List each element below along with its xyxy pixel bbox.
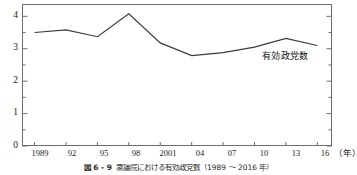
series-annotation-label: 有効政党数 — [262, 52, 309, 61]
figure-caption-number: 図 6 - 9 — [84, 164, 112, 172]
x-tick-label-98: 98 — [132, 149, 141, 158]
figure-container: 4 3 2 1 0 1989 92 95 98 2001 04 07 10 13… — [0, 0, 357, 175]
x-tick-label-07: 07 — [228, 149, 237, 158]
y-tick-label-1: 1 — [0, 108, 18, 118]
x-tick-label-10: 10 — [260, 149, 269, 158]
x-tick-label-95: 95 — [100, 149, 109, 158]
plot-frame — [22, 4, 332, 146]
x-axis-unit-label: （年） — [334, 149, 357, 158]
x-tick-label-16: 16 — [321, 149, 330, 158]
figure-caption-text: 衆議院における有効政党数（1989 〜 2016 年） — [116, 164, 273, 172]
y-tick-label-0: 0 — [0, 141, 18, 151]
y-tick-label-3: 3 — [0, 43, 18, 53]
x-tick-label-92: 92 — [68, 149, 77, 158]
x-tick-label-1989: 1989 — [32, 149, 49, 158]
y-tick-label-4: 4 — [0, 11, 18, 21]
x-tick-label-04: 04 — [196, 149, 205, 158]
x-tick-label-2001: 2001 — [160, 149, 177, 158]
y-tick-label-2: 2 — [0, 76, 18, 86]
x-tick-label-13: 13 — [292, 149, 301, 158]
figure-caption: 図 6 - 9衆議院における有効政党数（1989 〜 2016 年） — [0, 164, 357, 175]
